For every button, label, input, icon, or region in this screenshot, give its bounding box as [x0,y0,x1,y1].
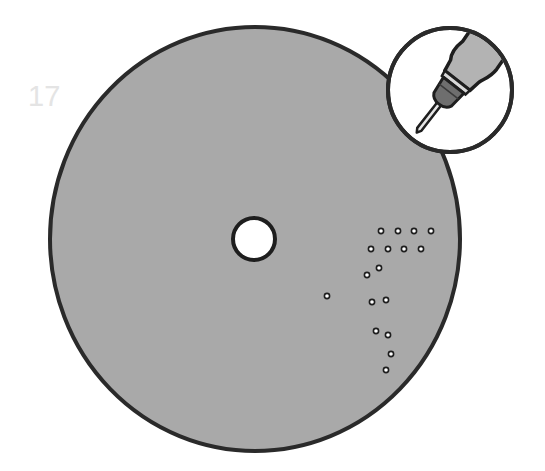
disc-drawing [0,0,545,471]
drill-inset [388,13,518,152]
drill-hole [411,228,416,233]
drill-hole [378,228,383,233]
center-hole [233,218,275,260]
drill-hole [388,351,393,356]
drill-hole [385,332,390,337]
drill-hole [428,228,433,233]
drill-hole [383,297,388,302]
drill-hole [376,265,381,270]
drill-hole [368,246,373,251]
drill-hole [373,328,378,333]
drill-hole [383,367,388,372]
drill-hole [324,293,329,298]
instruction-illustration: 17 [0,0,545,471]
drill-hole [385,246,390,251]
drill-hole [369,299,374,304]
drill-hole [364,272,369,277]
drill-hole [418,246,423,251]
drill-hole [401,246,406,251]
drill-hole [395,228,400,233]
